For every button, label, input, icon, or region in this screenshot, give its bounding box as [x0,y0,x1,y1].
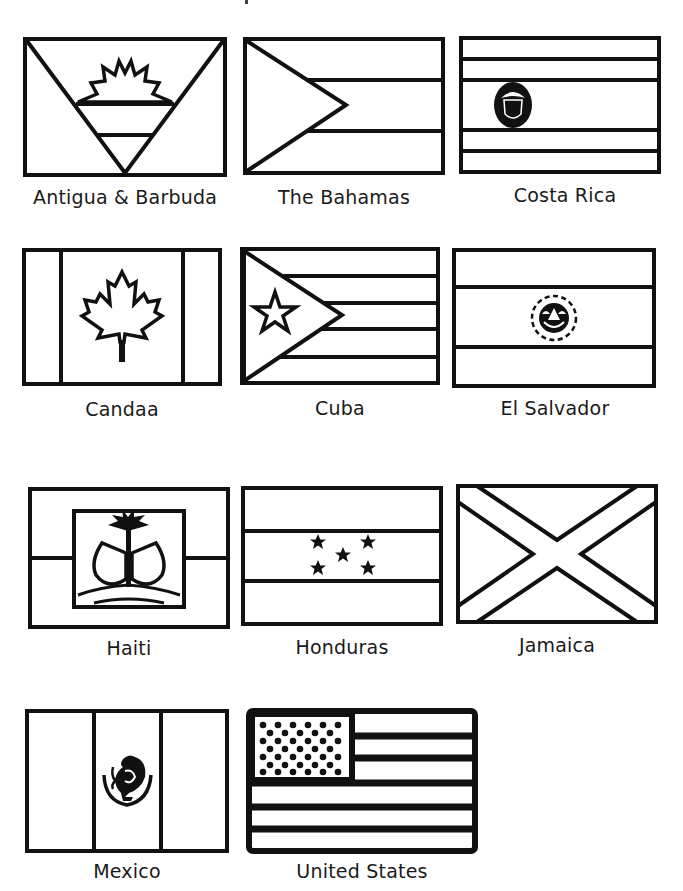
flag-antigua-barbuda [23,37,227,177]
flag-canada [22,248,222,386]
flag-honduras [241,486,443,626]
label-bahamas: The Bahamas [243,186,445,208]
el-salvador-flag-icon [452,248,656,388]
label-honduras: Honduras [241,636,443,658]
flag-mexico [25,709,229,853]
label-haiti: Haiti [28,637,230,659]
costa-rica-flag-icon [459,36,661,174]
label-mexico: Mexico [25,860,229,882]
flag-united-states [246,708,478,854]
antigua-flag-icon [23,37,227,177]
page-top-mark [245,0,248,4]
haiti-flag-icon [28,487,230,629]
honduras-flag-icon [241,486,443,626]
label-el-salvador: El Salvador [475,397,635,419]
jamaica-flag-icon [456,484,658,624]
mexico-flag-icon [25,709,229,853]
flag-costa-rica [459,36,661,174]
label-united-states: United States [246,860,478,882]
cuba-flag-icon [240,247,440,385]
bahamas-flag-icon [243,37,445,175]
label-antigua-barbuda: Antigua & Barbuda [23,186,227,208]
flag-haiti [28,487,230,629]
label-costa-rica: Costa Rica [480,184,650,206]
flag-el-salvador [452,248,656,388]
label-jamaica: Jamaica [456,634,658,656]
label-cuba: Cuba [240,397,440,419]
united-states-flag-icon [246,708,478,854]
flag-bahamas [243,37,445,175]
canada-flag-icon [22,248,222,386]
label-canada: Candaa [22,398,222,420]
flag-cuba [240,247,440,385]
flag-jamaica [456,484,658,624]
